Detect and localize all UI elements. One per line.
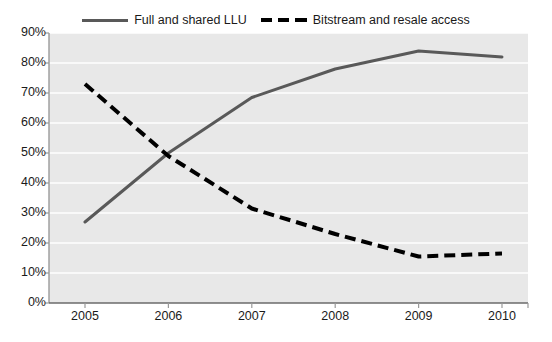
x-axis-tick-label: 2010: [472, 310, 532, 323]
x-axis-tick-label: 2005: [55, 310, 115, 323]
x-axis-tick-label: 2009: [389, 310, 449, 323]
x-axis-tick-label: 2007: [222, 310, 282, 323]
line-chart: Full and shared LLU Bitstream and resale…: [0, 0, 552, 342]
x-axis-tick-label: 2006: [138, 310, 198, 323]
x-axis-tick-label: 2008: [305, 310, 365, 323]
x-axis-labels: 200520062007200820092010: [0, 0, 552, 342]
